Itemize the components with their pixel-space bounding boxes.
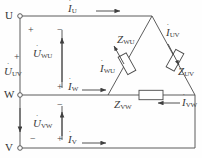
terminal-label-u: U [5, 10, 13, 21]
polarity-minus-u-uv: − [30, 134, 36, 144]
dot-accent-i-w: ˙ [69, 78, 72, 86]
current-sub-i-u: U [72, 7, 77, 15]
current-label-i-wu: ˙IWU [100, 63, 115, 75]
dot-accent-u-uv: ˙ [7, 63, 10, 71]
polarity-plus-w-node: + [57, 82, 63, 92]
current-label-i-uv: ˙IUV [166, 27, 179, 39]
impedance-box-vw [139, 90, 163, 99]
polarity-minus-u-wu: − [57, 25, 63, 35]
current-sub-i-vw: VW [186, 101, 197, 109]
terminal-node-v [18, 146, 23, 151]
polarity-plus-u-wu: + [28, 25, 34, 35]
current-label-i-u: ˙IU [68, 3, 77, 15]
current-sub-i-w: W [72, 85, 78, 93]
current-sub-i-wu: WU [104, 67, 115, 75]
dot-accent-i-u: ˙ [69, 0, 72, 8]
dot-accent-u-wu: ˙ [36, 45, 39, 53]
voltage-sub-u-uv: UV [12, 70, 22, 78]
impedance-label-z-wu: ZWU [117, 34, 134, 46]
voltage-label-u-vw: ˙UVW [33, 118, 52, 130]
current-label-i-vw: ˙IVW [182, 97, 197, 109]
current-label-i-v: ˙IV [68, 134, 77, 146]
impedance-sub-z-vw: VW [120, 103, 131, 111]
dot-accent-i-vw: ˙ [183, 94, 186, 102]
dot-accent-i-wu: ˙ [101, 60, 104, 68]
polarity-minus-u-vw: − [57, 100, 63, 110]
polarity-plus-u-uv: + [14, 52, 20, 62]
terminal-node-w [18, 93, 23, 98]
terminal-node-u [18, 14, 23, 19]
circuit-diagram: U W V ˙IU ˙IW ˙IV ˙IWU ˙IUV ˙IVW ˙UUV ˙U… [0, 0, 202, 158]
polarity-plus-u-vw: + [57, 134, 63, 144]
current-sub-i-uv: UV [170, 31, 180, 39]
terminal-label-w: W [4, 89, 14, 100]
voltage-label-u-wu: ˙UWU [33, 48, 52, 60]
impedance-sub-z-uv: UV [184, 70, 194, 78]
dot-accent-u-vw: ˙ [36, 115, 39, 123]
voltage-label-u-uv: ˙UUV [4, 66, 22, 78]
voltage-sub-u-wu: WU [41, 52, 52, 60]
current-label-i-w: ˙IW [68, 81, 78, 93]
impedance-sub-z-wu: WU [123, 38, 134, 46]
impedance-label-z-uv: ZUV [178, 66, 194, 78]
dot-accent-i-v: ˙ [69, 131, 72, 139]
dot-accent-i-uv: ˙ [167, 24, 170, 32]
delta-arm-wu [108, 16, 152, 95]
voltage-sub-u-vw: VW [41, 122, 52, 130]
terminal-label-v: V [5, 142, 13, 153]
current-sub-i-v: V [72, 138, 77, 146]
impedance-label-z-vw: ZVW [114, 99, 131, 111]
